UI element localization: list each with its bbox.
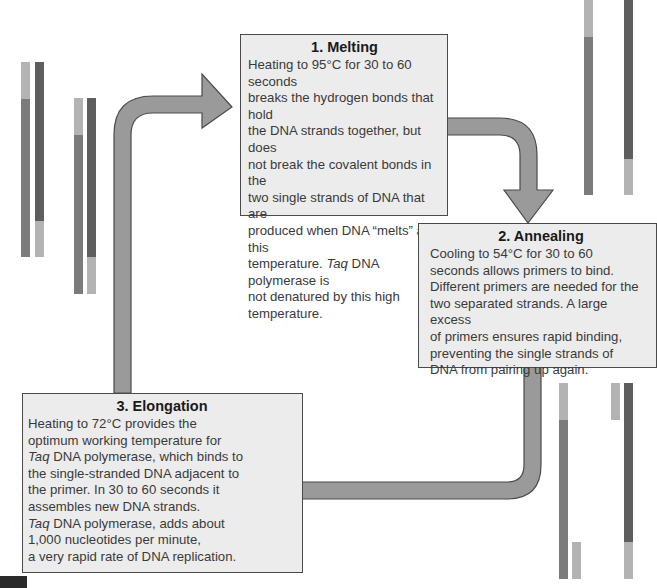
step-box-melting: 1. Melting Heating to 95°C for 30 to 60 …: [240, 34, 448, 216]
step-description: Heating to 95°C for 30 to 60 secondsbrea…: [248, 57, 441, 323]
arrow-elongation-to-melting: [114, 74, 232, 393]
step-box-elongation: 3. Elongation Heating to 72°C provides t…: [22, 393, 303, 573]
step-box-annealing: 2. Annealing Cooling to 54°C for 30 to 6…: [418, 223, 657, 368]
step-description: Cooling to 54°C for 30 to 60seconds allo…: [430, 246, 652, 379]
page-corner-marker: [0, 576, 27, 588]
step-description: Heating to 72°C provides theoptimum work…: [28, 416, 296, 565]
step-heading: 3. Elongation: [28, 398, 296, 414]
arrow-melting-to-annealing: [447, 118, 553, 223]
step-heading: 1. Melting: [248, 39, 441, 55]
step-heading: 2. Annealing: [430, 228, 652, 244]
